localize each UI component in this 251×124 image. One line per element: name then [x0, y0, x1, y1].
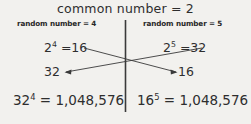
arrow-left-result-to-right-slot	[84, 48, 176, 72]
arrowhead-left	[65, 70, 72, 75]
exponent-cross-multiplication-diagram: common number = 2 random number = 4 rand…	[0, 0, 251, 124]
arrow-right-result-to-left-slot	[66, 48, 202, 72]
arrowhead-right	[171, 70, 178, 75]
diagram-vector-layer	[0, 0, 251, 124]
